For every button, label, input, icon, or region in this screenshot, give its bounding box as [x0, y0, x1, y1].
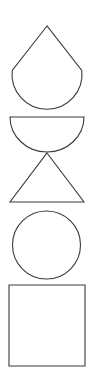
square-shape	[9, 285, 85, 366]
shape-stack	[0, 0, 94, 389]
semicircle-shape	[10, 117, 84, 152]
teardrop-shape	[12, 26, 82, 109]
triangle-shape	[10, 153, 84, 202]
shape-canvas	[0, 0, 94, 389]
circle-shape	[13, 211, 81, 279]
